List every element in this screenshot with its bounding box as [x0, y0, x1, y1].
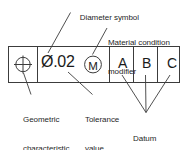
callout-line: Datum — [133, 134, 166, 144]
leader-line-material-condition — [93, 28, 108, 55]
callout-line: characteristic — [23, 144, 69, 150]
callout-line: value — [85, 144, 119, 150]
callout-line: Geometric — [23, 115, 69, 125]
tolerance-text: Ø.02 — [41, 54, 75, 70]
position-symbol — [14, 56, 32, 74]
callout-label-material-condition-modifier: Material condition modifier — [108, 19, 170, 96]
callout-label-geometric-characteristic-symbol: Geometric characteristic symbol — [23, 96, 69, 150]
leader-line-geometric-characteristic — [24, 73, 32, 95]
circled-m-symbol: M — [85, 56, 102, 73]
callout-line: modifier — [108, 67, 170, 77]
callout-label-datum-reference-letters: Datum reference letters — [133, 115, 166, 150]
callout-line: Tolerance — [85, 115, 119, 125]
callout-label-tolerance-value: Tolerance value — [85, 96, 119, 150]
leader-line-tolerance-value — [68, 72, 93, 95]
gdt-callout-diagram: M Ø.02 A B C Diameter symbol Material co… — [0, 0, 187, 150]
callout-line: Material condition — [108, 38, 170, 48]
circled-m-letter: M — [88, 60, 98, 72]
